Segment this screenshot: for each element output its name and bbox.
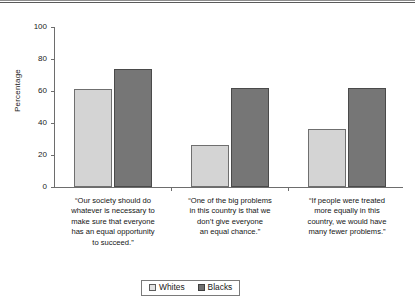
category-label-2: “One of the big problemsin this country … [174, 196, 286, 238]
y-tick-label: 20 [23, 151, 47, 159]
category-label-line: make sure that everyone [57, 217, 169, 227]
category-label-3: “If people were treatedmore equally in t… [291, 196, 403, 238]
legend-swatch-whites-icon [149, 284, 156, 291]
plot-area: Percentage 020406080100 “Our society sho… [0, 0, 415, 308]
bar-blacks-group1 [114, 69, 152, 187]
category-label-line: an equal chance.” [174, 227, 286, 237]
bar-whites-group3 [308, 129, 346, 187]
legend-label-whites: Whites [159, 283, 185, 292]
bar-blacks-group2 [231, 88, 269, 187]
category-label-line: many fewer problems.” [291, 227, 403, 237]
y-tick-label: 60 [23, 87, 47, 95]
category-label-line: to succeed.” [57, 238, 169, 248]
y-tick-label: 80 [23, 55, 47, 63]
category-label-line: “If people were treated [291, 196, 403, 206]
bar-blacks-group3 [348, 88, 386, 187]
group-separator [288, 187, 289, 191]
legend-entry-blacks: Blacks [198, 283, 233, 292]
legend-swatch-blacks-icon [198, 284, 205, 291]
x-axis-line [54, 187, 403, 188]
category-label-1: “Our society should dowhatever is necess… [57, 196, 169, 248]
category-label-line: has an equal opportunity [57, 227, 169, 237]
y-tick-label: 40 [23, 119, 47, 127]
category-label-line: “Our society should do [57, 196, 169, 206]
bar-whites-group2 [191, 145, 229, 187]
y-tick-label: 100 [23, 23, 47, 31]
bar-whites-group1 [74, 89, 112, 187]
category-label-line: whatever is necessary to [57, 206, 169, 216]
category-label-line: don’t give everyone [174, 217, 286, 227]
y-axis-title: Percentage [13, 41, 22, 141]
bar-chart-figure: Percentage 020406080100 “Our society sho… [0, 0, 415, 308]
legend-label-blacks: Blacks [208, 283, 233, 292]
legend-entry-whites: Whites [149, 283, 185, 292]
chart-legend: Whites Blacks [141, 280, 240, 296]
y-axis-line [54, 27, 55, 188]
group-separator [171, 187, 172, 191]
category-label-line: country, we would have [291, 217, 403, 227]
category-label-line: more equally in this [291, 206, 403, 216]
y-tick-label: 0 [23, 183, 47, 191]
category-label-line: in this country is that we [174, 206, 286, 216]
category-label-line: “One of the big problems [174, 196, 286, 206]
